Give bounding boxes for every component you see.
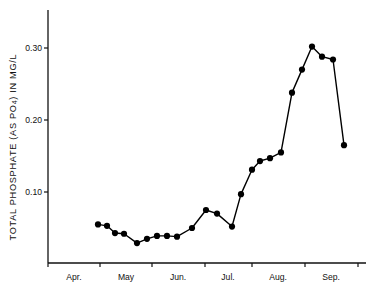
chart-figure: TOTAL PHOSPHATE (AS PO4) IN MG/L 0.30 0.…: [0, 0, 379, 294]
data-point: [278, 149, 284, 155]
data-point: [164, 233, 170, 239]
data-point: [95, 221, 101, 227]
data-point: [229, 223, 235, 229]
data-point: [319, 54, 325, 60]
data-point: [154, 233, 160, 239]
data-point: [214, 211, 220, 217]
data-point: [174, 234, 180, 240]
data-point: [257, 158, 263, 164]
data-point: [330, 56, 336, 62]
data-point: [134, 240, 140, 246]
data-series-markers: [95, 43, 347, 246]
data-point: [267, 155, 273, 161]
data-point: [104, 223, 110, 229]
data-point: [238, 191, 244, 197]
data-point: [309, 43, 315, 49]
data-point: [112, 230, 118, 236]
data-point: [289, 90, 295, 96]
data-point: [299, 67, 305, 73]
data-point: [249, 167, 255, 173]
data-point: [121, 231, 127, 237]
data-point: [203, 207, 209, 213]
data-series-line: [98, 47, 344, 244]
data-point: [189, 225, 195, 231]
plot-area: [0, 0, 379, 294]
data-point: [144, 236, 150, 242]
data-point: [341, 142, 347, 148]
